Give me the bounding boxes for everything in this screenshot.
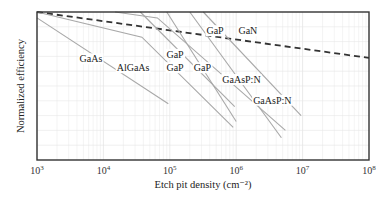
x-tick-label: 103 (30, 164, 44, 176)
series-label: GaAsP:N (253, 95, 291, 106)
x-tick-label: 105 (163, 164, 177, 176)
series-label: GaP (206, 25, 224, 36)
series-label: GaP (166, 49, 184, 60)
x-tick-label: 107 (296, 164, 310, 176)
efficiency-vs-etch-pit-density-chart: GaNGaAsAlGaAsGaPGaPGaPGaPGaAsP:NGaAsP:N … (0, 0, 390, 202)
data-series (37, 12, 369, 138)
series-label: AlGaAs (117, 62, 150, 73)
series-label: GaAsP:N (222, 74, 260, 85)
x-tick-label: 106 (229, 164, 243, 176)
series-label: GaP (166, 62, 184, 73)
x-axis-tick-labels: 103104105106107108 (30, 164, 376, 176)
x-tick-label: 104 (97, 164, 111, 176)
series-label: GaN (238, 25, 257, 36)
series-label: GaP (194, 62, 212, 73)
x-axis-title: Etch pit density (cm⁻²) (154, 179, 252, 191)
y-axis-title: Normalized efficiency (15, 38, 26, 133)
x-tick-label: 108 (362, 164, 376, 176)
grid-lines (37, 12, 369, 160)
series-label: GaAs (80, 53, 103, 64)
